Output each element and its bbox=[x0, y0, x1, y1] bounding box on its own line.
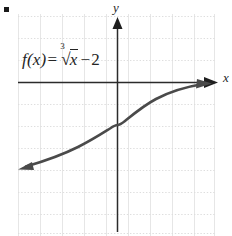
cube-root-radical: 3√x bbox=[61, 50, 78, 70]
formula-equals: = bbox=[46, 50, 58, 69]
radical-index: 3 bbox=[60, 42, 65, 51]
function-formula: f(x)=3√x−2 bbox=[22, 50, 100, 70]
formula-operator: − bbox=[79, 50, 91, 69]
y-axis-label: y bbox=[113, 0, 119, 16]
radicand: x bbox=[70, 49, 79, 69]
graph-plot bbox=[0, 0, 232, 236]
formula-function-name: f(x) bbox=[22, 50, 46, 69]
function-curve bbox=[18, 79, 212, 170]
formula-constant: 2 bbox=[91, 50, 100, 69]
x-axis-label: x bbox=[223, 70, 229, 86]
figure-canvas: f(x)=3√x−2 y x bbox=[0, 0, 232, 236]
